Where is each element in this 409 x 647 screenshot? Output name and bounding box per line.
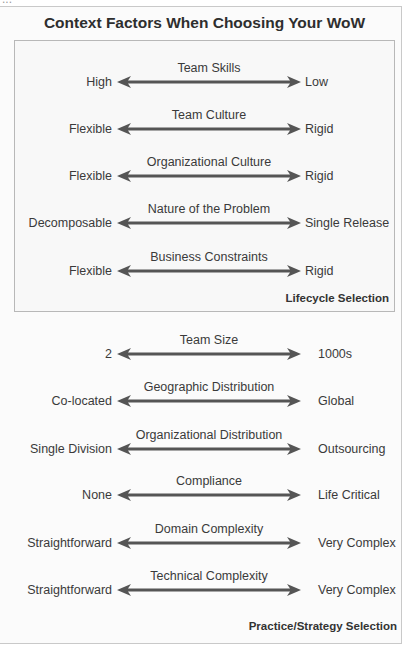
factor-row-technical-complexity: Straightforward Technical Complexity Ver…: [0, 572, 409, 602]
factor-left-value: Flexible: [69, 169, 112, 183]
double-arrow-icon: [117, 265, 301, 277]
lifecycle-section-label: Lifecycle Selection: [285, 292, 389, 304]
double-arrow-icon: [117, 489, 301, 501]
double-arrow-icon: [117, 348, 301, 360]
factor-right-value: Life Critical: [318, 488, 380, 502]
factor-left-value: 2: [105, 347, 112, 361]
factor-name: Compliance: [118, 474, 300, 488]
factor-right-value: Outsourcing: [318, 442, 385, 456]
factor-right-value: Rigid: [305, 169, 334, 183]
factor-left-value: Straightforward: [27, 583, 112, 597]
double-arrow-icon: [117, 395, 301, 407]
factor-right-value: Single Release: [305, 216, 389, 230]
factor-left-value: Co-located: [52, 394, 112, 408]
factor-name: Geographic Distribution: [118, 380, 300, 394]
factor-row-team-skills: High Team Skills Low: [0, 64, 409, 94]
double-arrow-icon: [117, 123, 301, 135]
double-arrow-icon: [117, 217, 301, 229]
factor-row-business-constraints: Flexible Business Constraints Rigid: [0, 253, 409, 283]
factor-name: Business Constraints: [118, 250, 300, 264]
factor-right-value: 1000s: [318, 347, 352, 361]
factor-right-value: Low: [305, 75, 328, 89]
factor-row-geographic-distribution: Co-located Geographic Distribution Globa…: [0, 383, 409, 413]
factor-name: Technical Complexity: [118, 569, 300, 583]
factor-right-value: Very Complex: [318, 536, 396, 550]
double-arrow-icon: [117, 76, 301, 88]
factor-left-value: Decomposable: [29, 216, 112, 230]
factor-left-value: None: [82, 488, 112, 502]
factor-row-nature-of-problem: Decomposable Nature of the Problem Singl…: [0, 205, 409, 235]
factor-name: Team Size: [118, 333, 300, 347]
factor-right-value: Global: [318, 394, 354, 408]
double-arrow-icon: [117, 443, 301, 455]
practice-section-label: Practice/Strategy Selection: [249, 620, 397, 632]
factor-name: Team Skills: [118, 61, 300, 75]
factor-name: Team Culture: [118, 108, 300, 122]
factor-row-compliance: None Compliance Life Critical: [0, 477, 409, 507]
factor-left-value: High: [86, 75, 112, 89]
cut-off-caption: ...: [0, 0, 409, 4]
factor-row-organizational-distribution: Single Division Organizational Distribut…: [0, 431, 409, 461]
factor-right-value: Very Complex: [318, 583, 396, 597]
factor-left-value: Flexible: [69, 122, 112, 136]
factor-name: Organizational Distribution: [118, 428, 300, 442]
double-arrow-icon: [117, 584, 301, 596]
diagram-title: Context Factors When Choosing Your WoW: [0, 14, 409, 32]
double-arrow-icon: [117, 170, 301, 182]
factor-row-organizational-culture: Flexible Organizational Culture Rigid: [0, 158, 409, 188]
factor-right-value: Rigid: [305, 264, 334, 278]
factor-row-domain-complexity: Straightforward Domain Complexity Very C…: [0, 525, 409, 555]
factor-left-value: Flexible: [69, 264, 112, 278]
factor-row-team-size: 2 Team Size 1000s: [0, 336, 409, 366]
factor-name: Nature of the Problem: [118, 202, 300, 216]
factor-left-value: Single Division: [30, 442, 112, 456]
factor-right-value: Rigid: [305, 122, 334, 136]
double-arrow-icon: [117, 537, 301, 549]
factor-left-value: Straightforward: [27, 536, 112, 550]
factor-name: Organizational Culture: [118, 155, 300, 169]
factor-name: Domain Complexity: [118, 522, 300, 536]
factor-row-team-culture: Flexible Team Culture Rigid: [0, 111, 409, 141]
